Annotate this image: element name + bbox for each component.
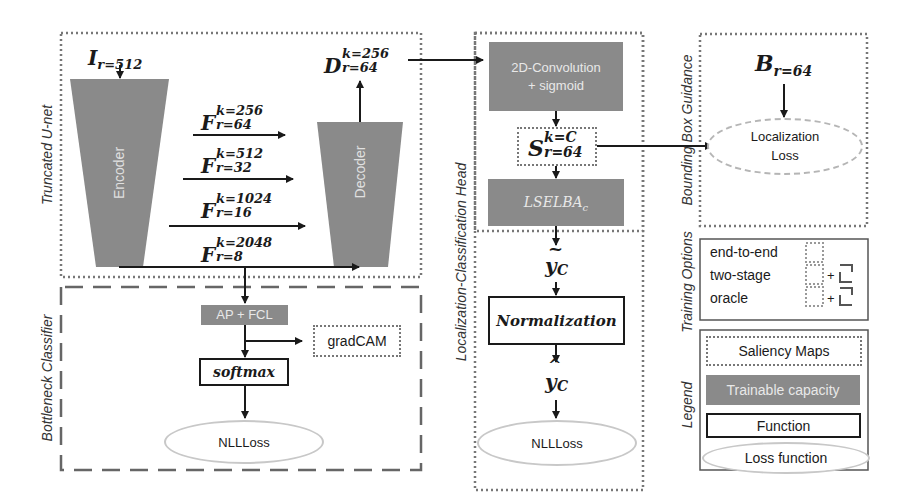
softmax-function: softmax [199, 358, 289, 386]
decoder-output-symbol: D k=256 r=64 [324, 46, 404, 76]
skip-feature-3: F k=1024 r=16 [201, 191, 291, 221]
saliency-map-box: S k=C r=64 [517, 127, 597, 166]
training-option-end-to-end: end-to-end [710, 244, 778, 260]
decoder-label: Decoder [352, 146, 368, 199]
section-label-bounding-box-guidance: Bounding Box Guidance [679, 55, 695, 206]
plus-sign-oracle: + [827, 291, 835, 306]
lselba-pooling-block: LSELBAc [488, 179, 624, 226]
encoder-label: Encoder [111, 147, 127, 199]
plus-sign-two-stage: + [827, 268, 835, 283]
skip-feature-2: F k=512 r=32 [201, 146, 281, 176]
section-label-localization-classification-head: Localization-Classification Head [453, 163, 469, 361]
bbox-symbol: Br=64 [755, 50, 812, 76]
section-label-legend: Legend [679, 382, 695, 429]
y-hat-symbol: ^ y C [545, 364, 575, 398]
input-image-symbol: Ir=512 [88, 46, 142, 70]
skip-feature-1: F k=256 r=64 [201, 103, 281, 133]
normalization-function: Normalization [488, 296, 625, 345]
legend-saliency-maps: Saliency Maps [706, 336, 862, 366]
training-option-oracle: oracle [710, 290, 748, 306]
conv-sigmoid-block: 2D-Convolution + sigmoid [489, 42, 623, 111]
y-tilde-symbol: ~ y C [545, 248, 575, 282]
section-label-bottleneck-classifier: Bottleneck Classifier [39, 315, 55, 442]
legend-trainable-capacity: Trainable capacity [706, 375, 860, 405]
localization-loss: Localization Loss [707, 118, 863, 175]
section-label-truncated-unet: Truncated U-net [39, 105, 55, 205]
gradcam-label: gradCAM [327, 333, 386, 349]
legend-function: Function [706, 413, 861, 438]
ap-fcl-block: AP + FCL [201, 305, 288, 325]
section-label-training-options: Training Options [679, 231, 695, 333]
gradcam-box: gradCAM [313, 325, 401, 357]
legend-loss-function: Loss function [702, 442, 870, 474]
head-nllloss: NLLLoss [477, 420, 637, 466]
bottleneck-nllloss: NLLLoss [164, 420, 324, 464]
training-option-two-stage: two-stage [710, 267, 771, 283]
skip-feature-4: F k=2048 r=8 [201, 235, 291, 265]
